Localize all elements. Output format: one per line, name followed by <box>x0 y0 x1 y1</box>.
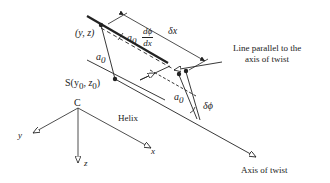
point-s <box>113 77 117 81</box>
label-origin-c: C <box>74 98 81 108</box>
label-helix: Helix <box>118 114 138 123</box>
point-yz <box>99 23 103 27</box>
label-a0-left: a0 <box>96 52 106 65</box>
label-axis-z: z <box>84 159 88 168</box>
label-delta-phi: δϕ <box>203 101 213 111</box>
label-axis-y: y <box>18 131 22 140</box>
label-a0-right: a0 <box>174 92 184 105</box>
label-a0-top: a0 <box>127 33 137 46</box>
label-point-yz: (y, z) <box>75 28 94 38</box>
diagram-lines <box>0 0 330 183</box>
label-dphi-dx: dϕ dx <box>142 27 153 48</box>
label-delta-x: δx <box>168 26 177 36</box>
parallel-dashed-line <box>101 28 175 70</box>
label-line-parallel: Line parallel to the axis of twist <box>233 44 301 64</box>
label-point-s: S(y0, z0) <box>65 78 100 91</box>
diagram-canvas: (y, z) S(y0, z0) a0 a0 dϕ dx δx Line par… <box>0 0 330 183</box>
delta-x-dimension <box>108 13 208 70</box>
parallel-line <box>150 62 222 96</box>
label-axis-x: x <box>151 147 155 156</box>
label-axis-of-twist: Axis of twist <box>241 166 288 175</box>
